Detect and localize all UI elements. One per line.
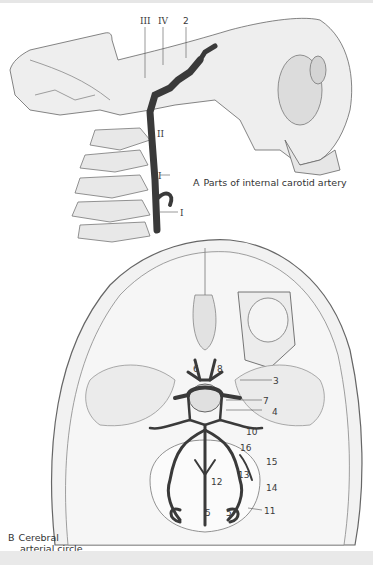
- label-13: 13: [238, 470, 249, 480]
- label-12: 12: [211, 477, 222, 487]
- panel-b-skull-base-illustration: [52, 240, 362, 545]
- label-5-left: 5: [205, 508, 211, 518]
- label-i-lower: I: [180, 208, 184, 218]
- label-8: 8: [217, 364, 223, 374]
- bottom-band: [0, 551, 373, 565]
- panel-a-caption: AParts of internal carotid artery: [193, 177, 347, 188]
- label-4: 4: [272, 407, 278, 417]
- anatomy-illustration: [0, 0, 373, 565]
- panel-a-letter: A: [193, 177, 200, 188]
- panel-b-caption-line1: Cerebral: [19, 532, 59, 543]
- label-iii: III: [140, 16, 151, 26]
- label-3: 3: [273, 376, 279, 386]
- label-i-upper: I: [158, 171, 162, 181]
- panel-a-caption-text: Parts of internal carotid artery: [204, 177, 347, 188]
- label-10: 10: [246, 427, 257, 437]
- label-15: 15: [266, 457, 277, 467]
- label-16: 16: [240, 443, 251, 453]
- label-11: 11: [264, 506, 275, 516]
- label-iv: IV: [158, 16, 168, 26]
- label-5-right: 5: [226, 508, 232, 518]
- label-6: 6: [193, 364, 199, 374]
- label-7: 7: [263, 396, 269, 406]
- panel-b-letter: B: [8, 532, 15, 543]
- label-2: 2: [183, 16, 189, 26]
- label-14: 14: [266, 483, 277, 493]
- label-ii: II: [157, 129, 164, 139]
